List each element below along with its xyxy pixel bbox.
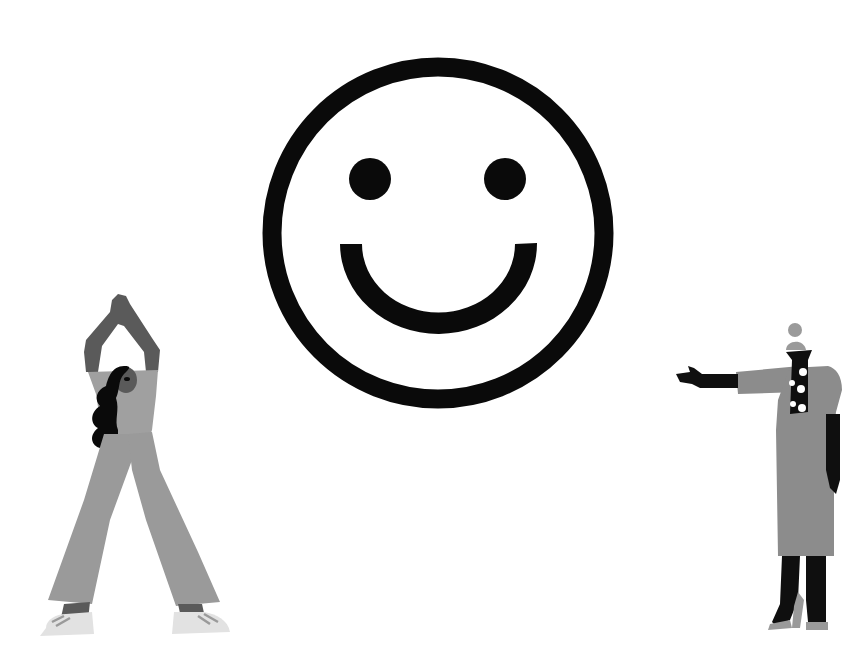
scarf-dot xyxy=(797,385,805,393)
scarf-dot xyxy=(799,368,807,376)
left-sneaker xyxy=(40,612,94,636)
right-sneaker xyxy=(172,612,230,634)
smiley-mouth xyxy=(340,243,537,334)
scarf-dot xyxy=(790,401,796,407)
hat-pompom xyxy=(788,323,802,337)
right-pant-leg xyxy=(128,432,220,606)
right-shoe-sole xyxy=(806,622,828,630)
pointing-hand xyxy=(676,366,738,388)
scarf-dot xyxy=(798,404,806,412)
smiley-left-eye xyxy=(349,158,391,200)
illustration-scene xyxy=(0,0,868,668)
woman-stretching-figure xyxy=(40,294,230,636)
eye xyxy=(124,377,130,381)
raised-arms xyxy=(84,294,160,372)
right-boot xyxy=(806,556,826,622)
smiley-right-eye xyxy=(484,158,526,200)
scarf-dot xyxy=(789,380,795,386)
smiley-outline xyxy=(272,67,604,399)
left-pant-leg xyxy=(48,434,132,604)
smiley-face-icon xyxy=(272,67,604,399)
woman-pointing-figure xyxy=(676,323,842,630)
hat xyxy=(786,342,806,350)
